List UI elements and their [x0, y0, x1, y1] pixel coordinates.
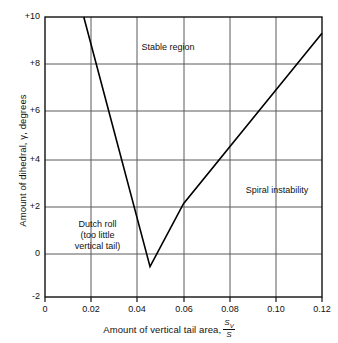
annotation-stable-region: Stable region: [123, 42, 213, 54]
tail-area-ratio-fraction: SV S: [223, 319, 235, 339]
x-tick-label-008: 0.08: [210, 304, 250, 314]
annotation-dutch-roll-line2: (too little: [55, 230, 140, 242]
x-tick-label-0: 0: [25, 304, 65, 314]
x-axis-title: Amount of vertical tail area, SV S: [0, 320, 338, 340]
x-axis-title-text: Amount of vertical tail area,: [103, 324, 221, 335]
y-axis-title: Amount of dihedral, γ, degrees: [17, 61, 28, 261]
x-tick-label-010: 0.10: [256, 304, 296, 314]
fraction-numerator: SV: [223, 319, 235, 329]
chart-figure: +10 +8 +6 +4 +2 0 -2 0 0.02 0.04 0.06 0.…: [0, 0, 338, 343]
annotation-dutch-roll-line3: vertical tail): [55, 241, 140, 253]
y-tick-label-10: +10: [4, 11, 40, 21]
x-tick-label-012: 0.12: [302, 304, 338, 314]
fraction-numerator-subscript: V: [230, 323, 234, 329]
x-tick-label-004: 0.04: [117, 304, 157, 314]
x-tick-label-006: 0.06: [164, 304, 204, 314]
x-axis-ticks: [45, 297, 322, 302]
annotation-dutch-roll-line1: Dutch roll: [55, 219, 140, 231]
fraction-denominator: S: [225, 331, 232, 339]
x-tick-label-002: 0.02: [71, 304, 111, 314]
annotation-spiral-instability: Spiral instability: [222, 185, 332, 197]
y-tick-label-minus-2: -2: [4, 291, 40, 301]
